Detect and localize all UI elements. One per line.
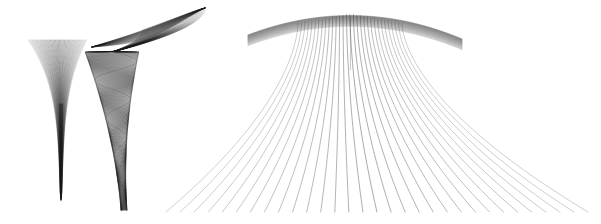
figure-container: Three bundles of plane curves [0,0,601,224]
curve-bundles-plot [0,0,601,224]
